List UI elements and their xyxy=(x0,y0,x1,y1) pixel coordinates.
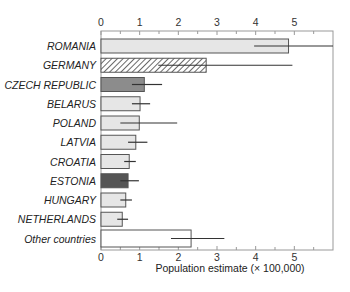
category-labels: ROMANIAGERMANYCZECH REPUBLICBELARUSPOLAN… xyxy=(4,40,97,245)
category-label: CZECH REPUBLIC xyxy=(4,79,96,91)
top-tick-label: 2 xyxy=(175,16,181,28)
top-tick-label: 5 xyxy=(291,16,297,28)
category-label: HUNGARY xyxy=(44,194,97,206)
top-tick-label: 1 xyxy=(137,16,143,28)
bar-chart: ROMANIAGERMANYCZECH REPUBLICBELARUSPOLAN… xyxy=(0,0,350,292)
bars-group xyxy=(101,39,289,247)
top-tick-label: 3 xyxy=(214,16,220,28)
x-axis-title: Population estimate (× 100,000) xyxy=(155,262,304,274)
bottom-tick-label: 0 xyxy=(98,251,104,263)
bottom-tick-label: 1 xyxy=(137,251,143,263)
category-label: BELARUS xyxy=(47,98,96,110)
top-tick-label: 0 xyxy=(98,16,104,28)
category-label: POLAND xyxy=(53,117,97,129)
category-label: GERMANY xyxy=(43,59,97,71)
category-label: Other countries xyxy=(24,233,97,245)
error-bars-group xyxy=(117,46,333,239)
category-label: LATVIA xyxy=(61,136,96,148)
category-label: NETHERLANDS xyxy=(18,213,96,225)
category-label: CROATIA xyxy=(50,156,96,168)
category-label: ESTONIA xyxy=(50,175,96,187)
top-tick-label: 4 xyxy=(253,16,259,28)
category-label: ROMANIA xyxy=(47,40,96,52)
